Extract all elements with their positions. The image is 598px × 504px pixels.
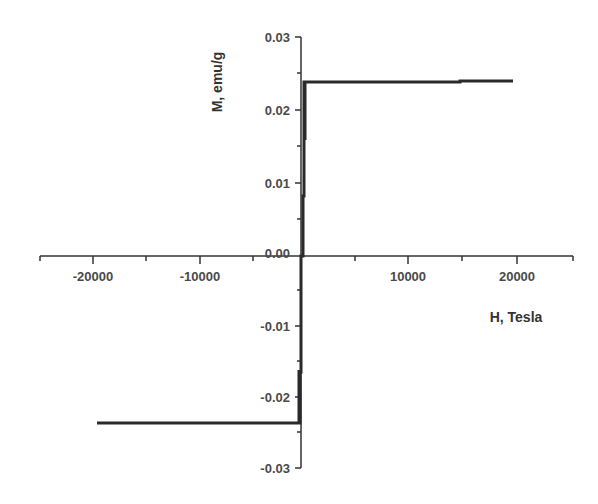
x-axis: -20000 -10000 10000 20000 H, Tesla bbox=[40, 256, 573, 325]
y-tick-label: 0.00 bbox=[265, 246, 290, 261]
hysteresis-chart: -20000 -10000 10000 20000 H, Tesla 0.03 … bbox=[0, 0, 598, 504]
x-axis-title: H, Tesla bbox=[490, 309, 543, 325]
y-tick-label: -0.03 bbox=[260, 461, 290, 476]
x-tick-label: 20000 bbox=[499, 269, 535, 284]
y-tick-label: 0.01 bbox=[265, 176, 290, 191]
y-axis-title: M, emu/g bbox=[209, 52, 225, 113]
x-tick-label: -20000 bbox=[73, 269, 113, 284]
y-axis: 0.03 0.02 0.01 0.00 -0.01 -0.02 -0.03 M,… bbox=[209, 30, 301, 476]
data-series bbox=[97, 81, 513, 423]
x-tick-label: 10000 bbox=[390, 269, 426, 284]
y-tick-label: -0.02 bbox=[260, 390, 290, 405]
y-tick-label: -0.01 bbox=[260, 319, 290, 334]
y-tick-label: 0.03 bbox=[265, 30, 290, 45]
x-tick-label: -10000 bbox=[180, 269, 220, 284]
y-tick-label: 0.02 bbox=[265, 103, 290, 118]
